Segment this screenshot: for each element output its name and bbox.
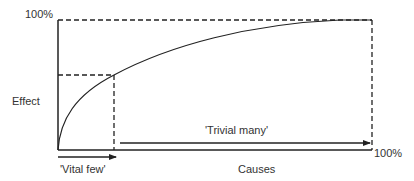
pareto-diagram — [0, 0, 414, 181]
trivial-many-label: 'Trivial many' — [205, 124, 268, 136]
x-right-label: 100% — [374, 147, 402, 159]
y-axis-label: Effect — [12, 95, 40, 107]
y-top-label: 100% — [25, 8, 53, 20]
x-axis-label: Causes — [238, 163, 275, 175]
vital-few-label: 'Vital few' — [60, 163, 106, 175]
